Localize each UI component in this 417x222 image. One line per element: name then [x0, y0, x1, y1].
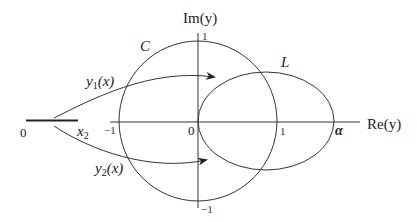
segment-start-label: 0	[20, 126, 27, 139]
y2-map-label: y2(x)	[95, 161, 123, 178]
imag-tick-neg-one: −1	[201, 204, 213, 215]
complex-plane-diagram: Im(y) Re(y) 1 −1 −1 0 1 α C L 0 x2 y1(x)…	[0, 0, 417, 222]
y1-arg: (x)	[98, 73, 115, 89]
curve-l-label: L	[281, 55, 289, 70]
segment-end-label: x2	[77, 124, 89, 141]
y2-var: y	[95, 160, 102, 176]
circle-c-label: C	[140, 39, 150, 54]
y2-arg: (x)	[107, 160, 124, 176]
segment-end-var: x	[77, 123, 84, 139]
real-tick-one: 1	[280, 126, 286, 137]
diagram-canvas	[0, 0, 417, 222]
real-axis-label: Re(y)	[367, 117, 401, 132]
alpha-label: α	[335, 124, 343, 138]
segment-end-sub: 2	[84, 130, 89, 141]
curve-l	[198, 72, 334, 170]
imag-tick-one: 1	[202, 31, 208, 42]
real-tick-neg-one: −1	[104, 125, 116, 136]
y1-var: y	[86, 73, 93, 89]
origin-label: 0	[188, 124, 195, 137]
imaginary-axis-label: Im(y)	[183, 11, 217, 26]
y1-map-arrow	[54, 75, 214, 118]
y1-map-label: y1(x)	[86, 74, 114, 91]
